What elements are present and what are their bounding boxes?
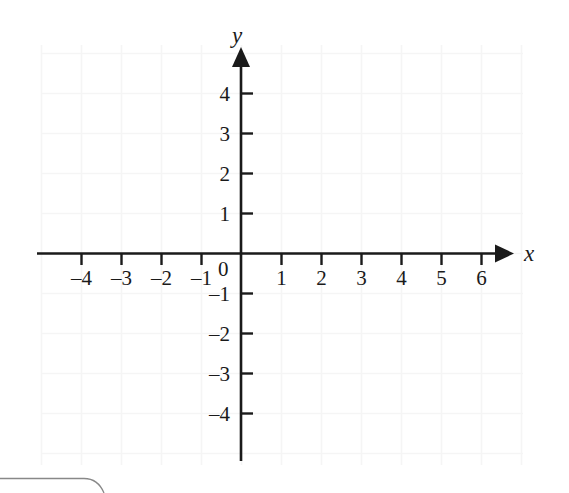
x-tick-label-4: 4 (396, 268, 407, 289)
x-tick-label-1: 1 (276, 268, 287, 289)
y-tick-label-neg4: –4 (202, 403, 230, 424)
x-axis-label: x (524, 242, 534, 265)
x-tick-label-neg3: –3 (111, 268, 132, 289)
y-tick-label-3: 3 (212, 123, 230, 144)
y-tick-label-2: 2 (212, 163, 230, 184)
y-tick-label-1: 1 (212, 203, 230, 224)
y-tick-label-neg2: –2 (202, 323, 230, 344)
y-axis-label: y (232, 24, 242, 47)
x-tick-label-2: 2 (316, 268, 327, 289)
x-tick-label-neg2: –2 (151, 268, 172, 289)
x-tick-label-6: 6 (476, 268, 487, 289)
y-tick-label-neg1: –1 (202, 283, 230, 304)
x-tick-label-3: 3 (356, 268, 367, 289)
x-tick-label-neg4: –4 (71, 268, 92, 289)
x-tick-label-5: 5 (436, 268, 447, 289)
y-tick-label-neg3: –3 (202, 363, 230, 384)
graph-figure: –4 –3 –2 –1 1 2 3 4 5 6 0 4 3 2 1 –1 –2 … (0, 0, 569, 493)
x-axis-ticks (82, 254, 482, 266)
origin-label: 0 (218, 259, 229, 280)
y-axis-arrowhead (232, 47, 250, 67)
coordinate-plane-svg (0, 0, 569, 493)
bottom-panel-edge (0, 479, 104, 493)
x-axis-arrowhead (495, 245, 514, 263)
y-tick-label-4: 4 (212, 83, 230, 104)
